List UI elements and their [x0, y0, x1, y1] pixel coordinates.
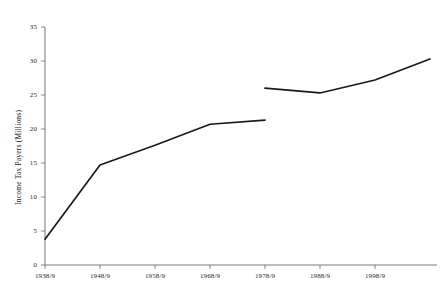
line-chart-plot	[0, 0, 443, 293]
y-axis-ticks	[41, 27, 45, 265]
y-tick-label-35: 35	[20, 23, 37, 31]
x-tick-label-1948: 1948/9	[90, 272, 110, 280]
x-axis-ticks	[45, 265, 375, 269]
y-axis-title: Income Tax Payers (Millions)	[14, 110, 23, 205]
x-tick-label-1988: 1988/9	[310, 272, 330, 280]
data-line-segment-2	[265, 59, 430, 93]
x-tick-label-1968: 1968/9	[200, 272, 220, 280]
y-tick-label-30: 30	[20, 57, 37, 65]
y-tick-label-25: 25	[20, 91, 37, 99]
data-line-segment-1	[45, 120, 265, 239]
y-tick-label-5: 5	[20, 227, 37, 235]
x-tick-label-1998: 1998/9	[365, 272, 385, 280]
chart-container: 0 5 10 15 20 25 30 35 1938/9 1948/9 1958…	[0, 0, 443, 293]
y-tick-label-0: 0	[20, 261, 37, 269]
x-tick-label-1938: 1938/9	[35, 272, 55, 280]
x-tick-label-1958: 1958/9	[145, 272, 165, 280]
x-tick-label-1978: 1978/9	[255, 272, 275, 280]
data-series-layer	[45, 59, 430, 239]
